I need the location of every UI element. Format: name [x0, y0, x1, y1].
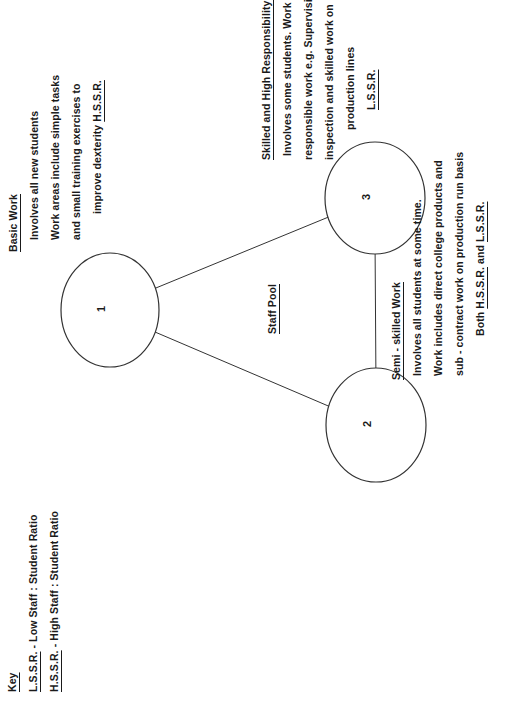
- semi-skilled-work-title: Semi - skilled Work: [386, 205, 407, 380]
- semi-skilled-work-block: Semi - skilled Work Involves all student…: [386, 205, 491, 380]
- basic-work-line: improve dexterity H.S.S.R.: [87, 122, 108, 252]
- semi-skilled-ratio-b: L.S.S.R.: [474, 202, 486, 242]
- basic-work-title: Basic Work: [3, 122, 24, 252]
- staff-pool-label: Staff Pool: [262, 284, 283, 334]
- edge-3-2: [375, 235, 376, 390]
- skilled-work-title: Skilled and High Responsibility Work: [256, 12, 277, 160]
- edge-1-3: [151, 216, 331, 290]
- key-text: - Low Staff : Student Ratio: [27, 515, 39, 652]
- semi-skilled-work-line: Work includes direct college products an…: [428, 205, 449, 380]
- skilled-work-ratio: L.S.S.R.: [365, 70, 377, 110]
- node-circle-1: [61, 253, 159, 367]
- node-label-1: 1: [95, 306, 107, 312]
- semi-skilled-work-line: sub - contract work on production run ba…: [449, 205, 470, 380]
- key-title: Key: [2, 511, 23, 692]
- node-label-3: 3: [360, 194, 372, 200]
- skilled-work-ratio-row: L.S.S.R.: [361, 12, 382, 160]
- staff-pool-block: Staff Pool: [262, 284, 283, 334]
- basic-work-line: Involves all new students: [24, 122, 45, 252]
- semi-skilled-work-ratio-row: Both H.S.S.R. and L.S.S.R.: [470, 205, 491, 380]
- key-abbr: H.S.S.R.: [48, 650, 60, 692]
- basic-work-ratio: H.S.S.R.: [91, 80, 103, 122]
- semi-skilled-ratio-a: H.S.S.R.: [474, 267, 486, 309]
- key-text: - High Staff : Student Ratio: [48, 511, 60, 650]
- skilled-work-line: inspection and skilled work on: [319, 12, 340, 160]
- key-item-lssr: L.S.S.R. - Low Staff : Student Ratio: [23, 511, 44, 692]
- node-label-2: 2: [361, 421, 373, 427]
- semi-skilled-join: and: [474, 242, 486, 267]
- key-abbr: L.S.S.R.: [27, 652, 39, 692]
- semi-skilled-work-line: Involves all students at some time.: [407, 205, 428, 380]
- key-item-hssr: H.S.S.R. - High Staff : Student Ratio: [44, 511, 65, 692]
- skilled-work-block: Skilled and High Responsibility Work Inv…: [256, 12, 382, 160]
- key-block: Key L.S.S.R. - Low Staff : Student Ratio…: [2, 511, 65, 692]
- skilled-work-line: responsible work e.g. Supervision and: [298, 12, 319, 160]
- semi-skilled-prefix: Both: [474, 309, 486, 336]
- edge-1-2: [155, 332, 333, 408]
- basic-work-text: improve dexterity: [91, 122, 103, 214]
- basic-work-block: Basic Work Involves all new students Wor…: [3, 122, 108, 252]
- node-circle-2: [326, 368, 426, 482]
- basic-work-line: and small training exercises to: [66, 122, 87, 252]
- skilled-work-line: Involves some students. Work includes: [277, 12, 298, 160]
- basic-work-line: Work areas include simple tasks: [45, 122, 66, 252]
- skilled-work-line: production lines: [340, 12, 361, 160]
